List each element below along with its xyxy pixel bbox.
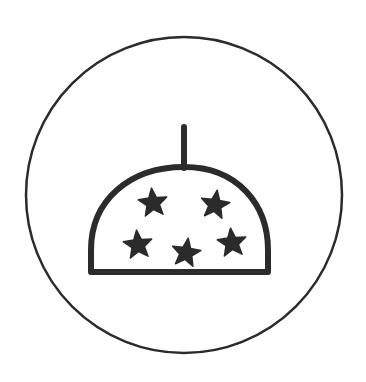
star-icon (217, 228, 245, 256)
star-icon (202, 190, 230, 218)
star-icon (123, 230, 151, 258)
outer-circle (26, 37, 342, 353)
star-icon (138, 188, 166, 216)
star-icon (173, 238, 201, 266)
stars-group (123, 188, 245, 266)
symbol-figure (0, 0, 366, 382)
